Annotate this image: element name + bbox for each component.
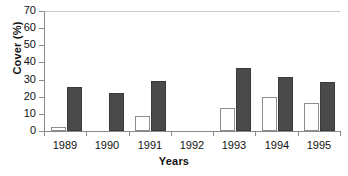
- x-axis-tick-label: 1990: [85, 139, 129, 151]
- y-axis-tick-label: 10: [12, 108, 36, 119]
- x-axis-baseline: [44, 131, 341, 132]
- x-axis-tick: [340, 131, 341, 136]
- x-axis-tick: [298, 131, 299, 136]
- plot-area: [44, 11, 340, 131]
- x-axis-tick-label: 1993: [212, 139, 256, 151]
- x-axis-tick-label: 1994: [255, 139, 299, 151]
- y-axis-tick-label: 60: [12, 22, 36, 33]
- bar-open-series-1991: [135, 116, 150, 131]
- x-axis-tick-label: 1991: [128, 139, 172, 151]
- y-axis-tick-label: 0: [12, 125, 36, 136]
- cover-by-year-bar-chart: Cover (%) 010203040506070 19891990199119…: [0, 0, 348, 176]
- y-axis-tick-label: 70: [12, 5, 36, 16]
- x-axis-label: Years: [0, 155, 348, 167]
- bar-filled-series-1995: [320, 82, 335, 131]
- bar-filled-series-1993: [236, 68, 251, 131]
- x-axis-tick: [44, 131, 45, 136]
- bar-filled-series-1989: [67, 87, 82, 131]
- x-axis-tick: [213, 131, 214, 136]
- bar-open-series-1993: [220, 108, 235, 131]
- y-axis-tick-label: 20: [12, 91, 36, 102]
- bar-filled-series-1994: [278, 77, 293, 131]
- y-axis-tick-label: 30: [12, 74, 36, 85]
- x-axis-tick-label: 1989: [43, 139, 87, 151]
- x-axis-tick-label: 1995: [297, 139, 341, 151]
- bar-open-series-1994: [262, 97, 277, 131]
- bar-open-series-1995: [304, 103, 319, 131]
- x-axis-tick: [129, 131, 130, 136]
- bar-filled-series-1990: [109, 93, 124, 131]
- bar-filled-series-1991: [151, 81, 166, 131]
- x-axis-tick: [86, 131, 87, 136]
- y-axis-tick-label: 50: [12, 39, 36, 50]
- x-axis-tick: [171, 131, 172, 136]
- x-axis-tick-label: 1992: [170, 139, 214, 151]
- x-axis-tick: [255, 131, 256, 136]
- y-axis-tick-label: 40: [12, 56, 36, 67]
